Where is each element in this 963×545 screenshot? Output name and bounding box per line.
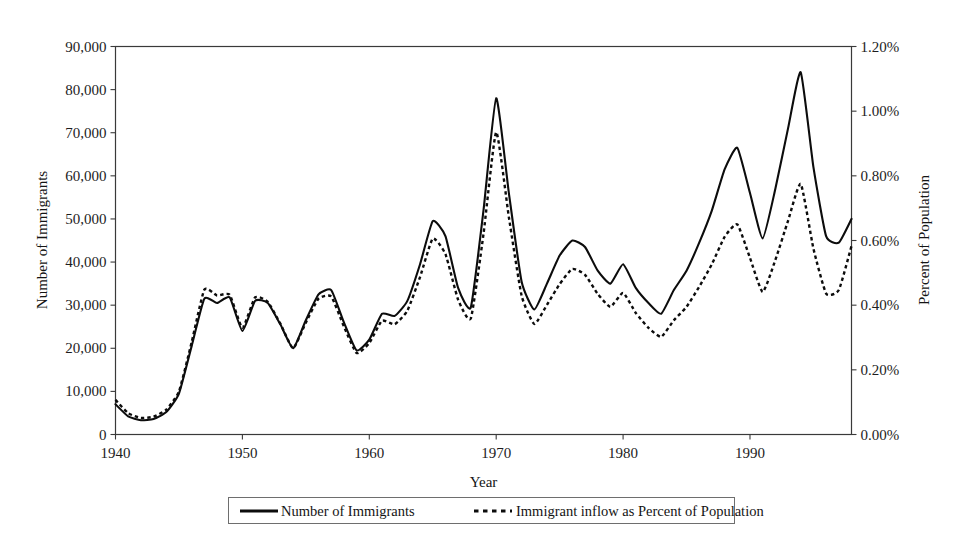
legend-label-number-of-immigrants: Number of Immigrants xyxy=(281,503,415,519)
x-tick-label: 1990 xyxy=(735,445,765,461)
y-right-tick-label: 0.80% xyxy=(861,168,900,184)
y-right-tick-label: 0.00% xyxy=(861,427,900,443)
y-right-tick-label: 0.60% xyxy=(861,233,900,249)
y-left-tick-label: 80,000 xyxy=(65,82,106,98)
x-tick-label: 1960 xyxy=(354,445,384,461)
y-left-tick-label: 60,000 xyxy=(65,168,106,184)
y-left-tick-label: 0 xyxy=(99,427,107,443)
line-chart-svg: 010,00020,00030,00040,00050,00060,00070,… xyxy=(0,0,963,545)
y-right-tick-label: 1.20% xyxy=(861,39,900,55)
x-tick-label: 1950 xyxy=(227,445,257,461)
y-right-tick-label: 1.00% xyxy=(861,103,900,119)
x-axis-title: Year xyxy=(470,474,498,490)
chart-figure: 010,00020,00030,00040,00050,00060,00070,… xyxy=(0,0,963,545)
y-left-tick-label: 20,000 xyxy=(65,340,106,356)
y-left-tick-label: 70,000 xyxy=(65,125,106,141)
y-left-tick-label: 30,000 xyxy=(65,297,106,313)
y-left-tick-label: 90,000 xyxy=(65,39,106,55)
chart-background xyxy=(0,0,963,545)
x-tick-label: 1970 xyxy=(481,445,511,461)
x-tick-label: 1980 xyxy=(608,445,638,461)
y-right-tick-label: 0.20% xyxy=(861,362,900,378)
legend-label-immigrant-percent: Immigrant inflow as Percent of Populatio… xyxy=(516,503,764,519)
x-tick-label: 1940 xyxy=(101,445,131,461)
y-axis-left-title: Number of Immigrants xyxy=(34,171,50,309)
y-left-tick-label: 40,000 xyxy=(65,254,106,270)
y-left-tick-label: 50,000 xyxy=(65,211,106,227)
y-left-tick-label: 10,000 xyxy=(65,383,106,399)
y-axis-right-title: Percent of Population xyxy=(916,175,932,305)
y-right-tick-label: 0.40% xyxy=(861,297,900,313)
chart-legend: Number of Immigrants Immigrant inflow as… xyxy=(229,498,765,524)
